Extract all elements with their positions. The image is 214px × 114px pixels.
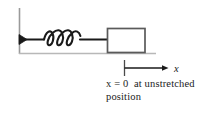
caption-line-1: x = 0 at unstretched: [106, 78, 214, 91]
block-mass: [108, 29, 146, 53]
x-axis-arrowhead-icon: [162, 65, 169, 71]
spring-coils: [44, 30, 80, 45]
caption: x = 0 at unstretched position: [106, 78, 214, 103]
x-axis-label: x: [173, 63, 179, 74]
figure-root: x x = 0 at unstretched position: [0, 0, 214, 114]
caption-line-2: position: [106, 91, 214, 104]
